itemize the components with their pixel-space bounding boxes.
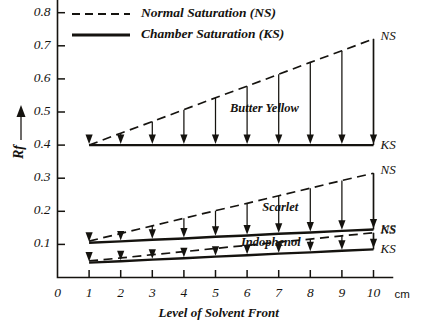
y-tick-label: 0.6 bbox=[34, 70, 51, 85]
end-label-ks: KS bbox=[380, 137, 397, 152]
y-tick-label: 0.7 bbox=[34, 37, 52, 52]
x-tick-label: 2 bbox=[117, 285, 124, 300]
y-tick-label: 0.1 bbox=[34, 235, 51, 250]
x-tick-label: 9 bbox=[339, 285, 346, 300]
annotation-butter-yellow: Butter Yellow bbox=[229, 101, 300, 115]
legend-label-2: Chamber Saturation (KS) bbox=[141, 26, 284, 41]
y-tick-label: 0.5 bbox=[34, 103, 51, 118]
x-tick-label: 5 bbox=[212, 285, 219, 300]
chart-canvas: 0.10.20.30.40.50.60.70.8012345678910cmLe… bbox=[0, 0, 425, 329]
x-tick-label: 6 bbox=[244, 285, 251, 300]
x-tick-label: 1 bbox=[86, 285, 93, 300]
annotation-indophenol: Indophenol bbox=[240, 235, 301, 249]
end-label-ns: NS bbox=[380, 222, 397, 237]
x-tick-label: 8 bbox=[307, 285, 314, 300]
chart-background bbox=[0, 0, 425, 329]
rf-chromatography-chart: 0.10.20.30.40.50.60.70.8012345678910cmLe… bbox=[0, 0, 425, 329]
y-tick-label: 0.4 bbox=[34, 136, 51, 151]
x-tick-label: 3 bbox=[148, 285, 156, 300]
x-tick-label: 10 bbox=[367, 285, 381, 300]
end-label-ks: KS bbox=[380, 241, 397, 256]
y-tick-label: 0.2 bbox=[34, 202, 51, 217]
x-tick-label: 0 bbox=[54, 285, 61, 300]
x-tick-label: 4 bbox=[181, 285, 188, 300]
x-axis-unit: cm bbox=[395, 288, 410, 300]
legend-label-1: Normal Saturation (NS) bbox=[140, 5, 276, 20]
annotation-scarlet: Scarlet bbox=[262, 200, 299, 214]
x-axis-title: Level of Solvent Front bbox=[158, 305, 280, 320]
y-tick-label: 0.8 bbox=[34, 4, 51, 19]
end-label-ns: NS bbox=[380, 162, 397, 177]
y-tick-label: 0.3 bbox=[34, 169, 51, 184]
end-label-ns: NS bbox=[380, 28, 397, 43]
y-axis-title: Rf bbox=[11, 144, 26, 160]
